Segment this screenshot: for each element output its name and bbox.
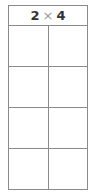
grid-cell-2-2[interactable] (49, 67, 88, 107)
grid-cell-3-2[interactable] (49, 108, 88, 148)
grid-row-4 (9, 149, 87, 189)
grid-cell-4-2[interactable] (49, 149, 88, 189)
grid-row-2 (9, 67, 87, 108)
grid-size-picker: 2 × 4 (8, 5, 88, 190)
column-count: 2 (31, 8, 40, 23)
grid-cell-1-1[interactable] (9, 26, 49, 66)
grid-size-label: 2 × 4 (9, 6, 87, 26)
row-count: 4 (56, 8, 65, 23)
grid-cell-3-1[interactable] (9, 108, 49, 148)
grid-row-1 (9, 26, 87, 67)
grid-row-3 (9, 108, 87, 149)
grid-cell-4-1[interactable] (9, 149, 49, 189)
grid-cell-2-1[interactable] (9, 67, 49, 107)
grid-cell-1-2[interactable] (49, 26, 88, 66)
grid-cells (9, 26, 87, 189)
times-symbol: × (43, 8, 54, 23)
